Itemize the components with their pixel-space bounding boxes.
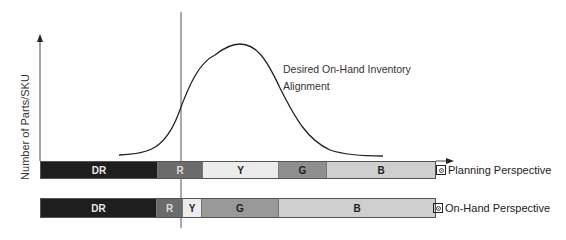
target-icon — [433, 203, 443, 213]
y-axis-label: Number of Parts/SKU — [19, 52, 35, 202]
planning-segment-dr: DR — [41, 162, 158, 178]
target-icon — [436, 165, 446, 175]
onhand-segment-r: R — [157, 199, 183, 217]
onhand-segment-g: G — [202, 199, 279, 217]
planning-perspective-bar: DR R Y G B — [40, 161, 436, 179]
annotation-line-1: Desired On-Hand Inventory — [283, 61, 411, 78]
onhand-segment-dr: DR — [41, 199, 157, 217]
annotation-line-2: Alignment — [283, 78, 411, 95]
planning-segment-g: G — [279, 162, 327, 178]
onhand-segment-b: B — [279, 199, 435, 217]
onhand-perspective-label: On-Hand Perspective — [433, 202, 550, 214]
onhand-perspective-bar: DR R Y G B — [40, 198, 436, 218]
onhand-perspective-text: On-Hand Perspective — [445, 202, 550, 214]
annotation: Desired On-Hand Inventory Alignment — [283, 61, 411, 95]
planning-perspective-text: Planning Perspective — [448, 164, 551, 176]
y-axis-arrow-icon — [37, 34, 43, 42]
planning-segment-r: R — [158, 162, 203, 178]
planning-segment-b: B — [327, 162, 435, 178]
planning-segment-y: Y — [203, 162, 279, 178]
planning-perspective-label: Planning Perspective — [436, 164, 551, 176]
onhand-segment-y: Y — [183, 199, 202, 217]
